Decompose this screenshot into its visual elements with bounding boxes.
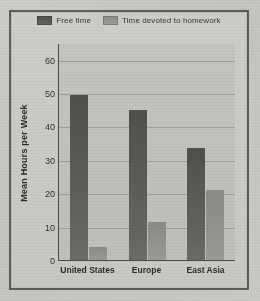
scanned-figure-page: Free time Time devoted to homework Mean … [0, 0, 260, 301]
bar-group-europe [118, 44, 177, 260]
y-tick-label-40: 40 [45, 122, 55, 132]
bar-europe-time-devoted-to-homework [148, 222, 166, 260]
y-axis-title: Mean Hours per Week [17, 44, 31, 261]
bar-united-states-free-time [70, 95, 88, 260]
gridline-0: 0 [59, 261, 235, 262]
bar-group-east-asia [176, 44, 235, 260]
x-label-europe: Europe [117, 265, 176, 275]
y-tick-label-20: 20 [45, 189, 55, 199]
y-tick-label-30: 30 [45, 156, 55, 166]
legend-label-free-time: Free time [56, 16, 91, 25]
x-label-united-states: United States [58, 265, 117, 275]
legend-swatch-homework [103, 16, 118, 25]
legend-label-homework: Time devoted to homework [122, 16, 221, 25]
legend-item-homework: Time devoted to homework [103, 16, 221, 25]
bar-group-united-states [59, 44, 118, 260]
chart-legend: Free time Time devoted to homework [11, 16, 247, 25]
bar-united-states-time-devoted-to-homework [89, 247, 107, 260]
bar-east-asia-free-time [187, 148, 205, 260]
y-tick-label-60: 60 [45, 56, 55, 66]
bar-groups [59, 44, 235, 260]
bar-east-asia-time-devoted-to-homework [206, 190, 224, 260]
legend-item-free-time: Free time [37, 16, 91, 25]
y-tick-label-0: 0 [50, 256, 55, 266]
x-label-east-asia: East Asia [176, 265, 235, 275]
legend-swatch-free-time [37, 16, 52, 25]
bar-europe-free-time [129, 110, 147, 260]
plot-area: 0102030405060 [58, 44, 235, 261]
figure-frame: Free time Time devoted to homework Mean … [9, 10, 249, 290]
y-tick-label-10: 10 [45, 223, 55, 233]
y-tick-label-50: 50 [45, 89, 55, 99]
x-axis-category-labels: United StatesEuropeEast Asia [58, 265, 235, 275]
y-axis-title-text: Mean Hours per Week [19, 104, 29, 202]
